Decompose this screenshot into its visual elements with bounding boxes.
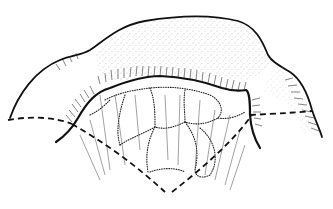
illustration-canvas [0, 0, 333, 209]
radiating-striations [80, 95, 245, 190]
dashed-left-horizontal-line [8, 118, 72, 124]
stippled-dome-shading [95, 17, 320, 135]
dashed-lines [8, 111, 312, 192]
dashed-v-right [172, 115, 252, 192]
specimen-drawing [0, 0, 333, 209]
inner-rim-line [56, 76, 260, 148]
dotted-cell-outlines [90, 87, 245, 177]
dashed-v-left [72, 124, 165, 192]
